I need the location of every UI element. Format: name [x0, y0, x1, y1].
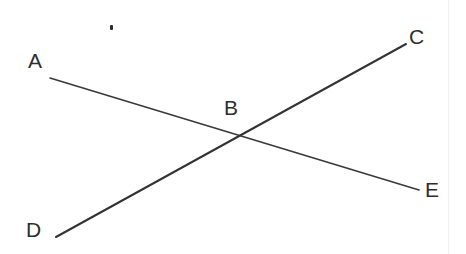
segment-a-e — [50, 78, 419, 190]
scan-edge-line — [448, 0, 449, 254]
point-label-b: B — [224, 97, 239, 118]
point-label-e: E — [425, 179, 440, 200]
geometry-canvas — [0, 0, 466, 254]
scan-speck-artifact — [110, 25, 113, 30]
segment-d-c — [56, 44, 406, 237]
geometry-figure: A B C D E — [0, 0, 466, 254]
point-label-a: A — [28, 50, 43, 71]
point-label-d: D — [26, 219, 42, 240]
point-label-c: C — [409, 26, 425, 47]
